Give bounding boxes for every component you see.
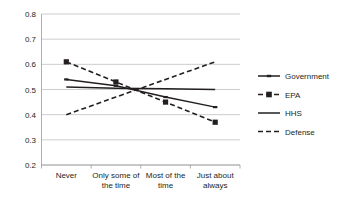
y-tick-label: 0.5 (25, 86, 37, 95)
x-tick-label: Only some of (92, 171, 140, 180)
data-point-marker (213, 120, 218, 125)
legend-marker (266, 92, 272, 98)
data-point-marker (113, 79, 118, 84)
legend-label-government: Government (285, 72, 330, 81)
data-point-marker (64, 78, 68, 80)
y-tick-label: 0.3 (25, 136, 37, 145)
x-tick-label: Most of the (146, 171, 186, 180)
x-axis-tick-labels: NeverOnly some ofthe timeMost of thetime… (56, 171, 235, 190)
series-line-hhs (66, 87, 215, 90)
data-point-marker (213, 106, 217, 108)
data-point-marker (163, 99, 168, 104)
y-tick-label: 0.8 (25, 10, 37, 19)
legend-label-defense: Defense (285, 128, 315, 137)
data-point-marker (64, 59, 69, 64)
line-chart: 0.20.30.40.50.60.70.8 NeverOnly some oft… (0, 0, 343, 204)
y-tick-label: 0.4 (25, 111, 37, 120)
y-tick-label: 0.7 (25, 35, 37, 44)
x-axis-ticks (42, 165, 241, 169)
x-tick-label: time (158, 181, 174, 190)
series-line-epa (66, 62, 215, 122)
x-tick-label: Never (56, 171, 78, 180)
series-line-government (66, 79, 215, 107)
x-tick-label: the time (102, 181, 131, 190)
chart-canvas: 0.20.30.40.50.60.70.8 NeverOnly some oft… (0, 0, 343, 204)
legend-label-hhs: HHS (285, 109, 302, 118)
data-point-marker (114, 85, 118, 87)
data-point-marker (163, 96, 167, 98)
legend-label-epa: EPA (285, 91, 301, 100)
legend-marker (267, 75, 271, 77)
y-axis-tick-labels: 0.20.30.40.50.60.70.8 (25, 10, 37, 170)
y-tick-label: 0.2 (25, 161, 37, 170)
chart-legend: GovernmentEPAHHSDefense (258, 72, 330, 137)
x-tick-label: always (203, 181, 227, 190)
y-tick-label: 0.6 (25, 60, 37, 69)
x-tick-label: Just about (197, 171, 235, 180)
